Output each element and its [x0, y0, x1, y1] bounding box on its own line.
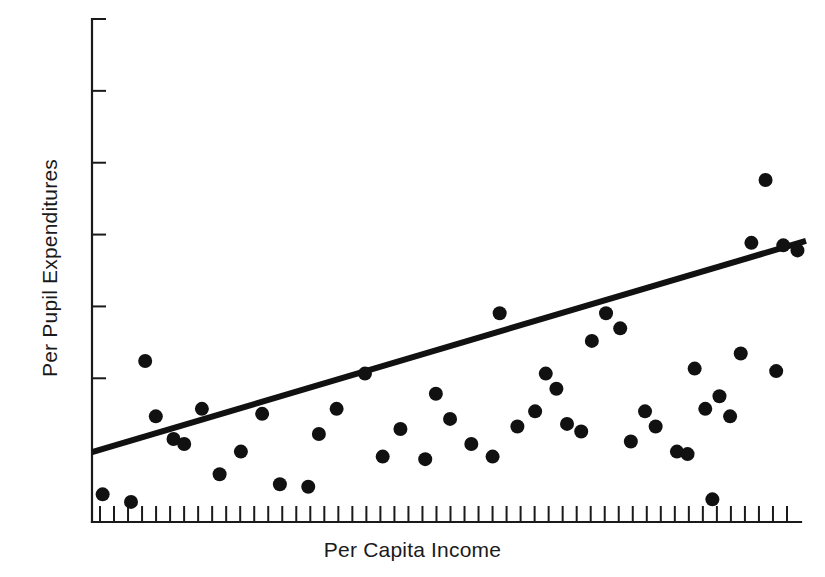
data-point — [177, 437, 191, 451]
data-point — [744, 236, 758, 250]
data-point — [195, 402, 209, 416]
y-axis-label: Per Pupil Expenditures — [38, 8, 68, 528]
data-point — [358, 367, 372, 381]
data-point — [649, 419, 663, 433]
data-point — [301, 480, 315, 494]
data-point — [574, 424, 588, 438]
data-point — [528, 404, 542, 418]
data-point — [330, 402, 344, 416]
data-point — [734, 346, 748, 360]
data-point — [769, 364, 783, 378]
data-point — [776, 238, 790, 252]
data-point — [712, 389, 726, 403]
data-point — [688, 362, 702, 376]
data-point — [273, 477, 287, 491]
data-point — [393, 422, 407, 436]
data-point — [638, 404, 652, 418]
data-point — [443, 412, 457, 426]
data-point — [96, 487, 110, 501]
y-axis-tick-group — [92, 19, 106, 378]
data-point — [681, 447, 695, 461]
data-point — [705, 492, 719, 506]
data-point — [138, 354, 152, 368]
data-point — [149, 409, 163, 423]
data-point — [213, 467, 227, 481]
data-point — [493, 306, 507, 320]
data-point — [429, 387, 443, 401]
data-point — [376, 450, 390, 464]
data-point — [124, 495, 138, 509]
data-point-group — [96, 173, 805, 509]
data-point — [560, 417, 574, 431]
x-axis-tick-group — [100, 506, 787, 522]
data-point — [624, 435, 638, 449]
data-point — [255, 407, 269, 421]
data-point — [312, 427, 326, 441]
data-point — [698, 402, 712, 416]
plot-canvas — [0, 0, 825, 577]
data-point — [549, 382, 563, 396]
data-point — [234, 445, 248, 459]
data-point — [613, 321, 627, 335]
data-point — [539, 367, 553, 381]
x-axis-label: Per Capita Income — [0, 538, 825, 562]
data-point — [486, 450, 500, 464]
data-point — [599, 306, 613, 320]
data-point — [418, 452, 432, 466]
data-point — [790, 243, 804, 257]
data-point — [759, 173, 773, 187]
data-point — [585, 334, 599, 348]
data-point — [464, 437, 478, 451]
scatter-plot-figure: Per Capita Income Per Pupil Expenditures — [0, 0, 825, 577]
data-point — [723, 409, 737, 423]
data-point — [510, 419, 524, 433]
